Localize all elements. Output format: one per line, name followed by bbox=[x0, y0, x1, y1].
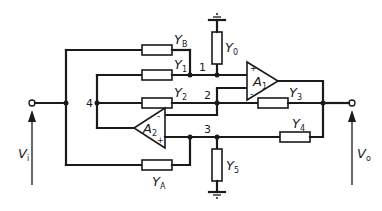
node-2-label: 2 bbox=[204, 89, 211, 102]
node-1-label: 1 bbox=[199, 61, 206, 74]
resistor-y2 bbox=[142, 98, 172, 108]
a2-minus-wire bbox=[165, 103, 217, 115]
circuit-diagram: YB 4 Y1 1 Y0 Y2 2 + - A1 bbox=[0, 0, 382, 211]
node-1-junction-left bbox=[188, 73, 193, 78]
y0-branch: Y0 bbox=[209, 14, 238, 75]
a1-minus-wire bbox=[217, 88, 247, 103]
circuit-svg: YB 4 Y1 1 Y0 Y2 2 + - A1 bbox=[0, 0, 382, 211]
node-3-label: 3 bbox=[204, 123, 211, 136]
y5-branch: Y5 bbox=[209, 137, 239, 198]
resistor-y5 bbox=[212, 149, 222, 181]
label-y4: Y4 bbox=[292, 116, 305, 133]
vo-arrow-head-icon bbox=[348, 110, 356, 122]
input-terminal bbox=[29, 100, 69, 106]
label-vi: Vi bbox=[18, 146, 29, 163]
label-y5: Y5 bbox=[226, 158, 239, 175]
a2-minus-sign: - bbox=[157, 111, 160, 121]
a1-minus-sign: - bbox=[250, 89, 253, 99]
y3-branch: Y3 bbox=[258, 85, 323, 108]
ya-wire-right bbox=[172, 137, 190, 165]
resistor-y0 bbox=[212, 32, 222, 64]
yb-branch: YB bbox=[66, 32, 190, 75]
opamp-a1: + - A1 bbox=[247, 62, 278, 100]
label-vo: Vo bbox=[357, 146, 371, 163]
resistor-y3 bbox=[258, 98, 288, 108]
label-yb: YB bbox=[174, 32, 187, 49]
node-4-label: 4 bbox=[86, 97, 93, 110]
resistor-y1 bbox=[142, 70, 172, 80]
a2-plus-sign: + bbox=[157, 136, 164, 145]
vi-arrow-head-icon bbox=[28, 110, 36, 122]
output-voltage-arrow: Vo bbox=[348, 110, 371, 185]
opamp-a2: - + A2 bbox=[134, 108, 165, 148]
label-y0: Y0 bbox=[225, 40, 238, 57]
a1-plus-sign: + bbox=[250, 64, 257, 73]
resistor-ya bbox=[142, 160, 172, 170]
label-y1: Y1 bbox=[174, 57, 187, 74]
resistor-yb bbox=[142, 45, 172, 55]
y4-branch: Y4 bbox=[280, 103, 323, 142]
y1-branch: Y1 bbox=[97, 57, 247, 80]
label-y3: Y3 bbox=[289, 85, 302, 102]
input-voltage-arrow: Vi bbox=[18, 110, 36, 185]
label-ya: YA bbox=[152, 174, 166, 191]
label-y2: Y2 bbox=[174, 85, 187, 102]
ya-branch: YA bbox=[66, 137, 190, 191]
resistor-y4 bbox=[280, 132, 310, 142]
node-1-junction-right bbox=[215, 73, 220, 78]
y4-wire-right bbox=[310, 103, 323, 137]
